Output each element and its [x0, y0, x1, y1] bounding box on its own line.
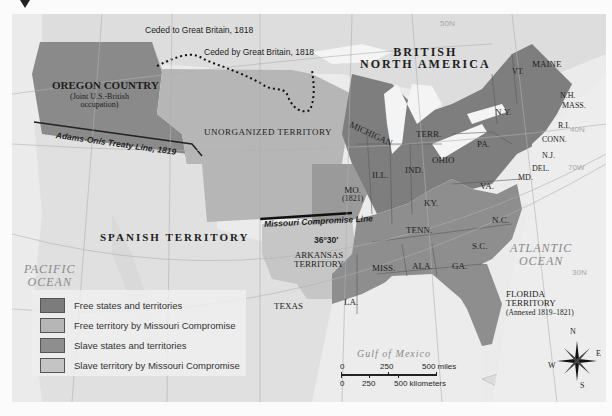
compass-w: W [548, 362, 556, 370]
annotation-ceded-to: Ceded to Great Britain, 1818 [145, 26, 253, 35]
state-label-ga: GA. [452, 262, 467, 271]
legend-swatch-slave-states [40, 338, 65, 353]
grid-label-30n: 30N [572, 269, 587, 277]
grid-label-40n: 40N [570, 126, 585, 134]
legend-item-slave-states: Slave states and territories [40, 337, 186, 353]
region-label-oregon-country: OREGON COUNTRY [52, 80, 159, 91]
state-label-ill: ILL. [372, 171, 388, 180]
region-label-michigan-terr: TERR. [416, 130, 441, 139]
scale-bar: 0 250 500 miles 0 250 500 kilometers [340, 363, 450, 393]
legend-label: Slave states and territories [74, 340, 186, 351]
region-label-british-north-america: BRITISH NORTH AMERICA [360, 46, 491, 70]
legend-swatch-free-territory [40, 318, 65, 333]
map-legend: Free states and territories Free territo… [32, 290, 246, 376]
region-label-spanish-territory: SPANISH TERRITORY [100, 232, 249, 243]
state-label-ri: R.I. [558, 122, 570, 130]
state-label-miss: MISS. [372, 264, 395, 273]
region-label-arkansas-territory: ARKANSAS TERRITORY [294, 251, 344, 269]
state-label-conn: CONN. [542, 136, 567, 144]
scale-km-250: 250 [362, 380, 375, 388]
legend-swatch-slave-territory [40, 358, 65, 373]
state-label-del: DEL. [532, 165, 550, 173]
state-label-ky: KY. [424, 199, 438, 208]
region-label-unorganized-territory: UNORGANIZED TERRITORY [204, 128, 332, 137]
state-label-vt: VT. [512, 68, 524, 76]
compass-s: S [580, 382, 584, 390]
compass-e: E [596, 350, 601, 358]
annotation-ceded-by: Ceded by Great Britain, 1818 [204, 48, 314, 57]
state-label-nh: N.H. [560, 92, 576, 100]
legend-label: Free states and territories [74, 300, 182, 311]
scale-miles-500: 500 miles [422, 363, 456, 371]
state-label-sc: S.C. [472, 242, 488, 251]
state-label-va: VA. [480, 182, 494, 191]
oregon-note: (Joint U.S.-British occupation) [70, 93, 129, 109]
legend-item-free-states: Free states and territories [40, 297, 182, 313]
compass-n: N [570, 328, 576, 336]
grid-label-50n: 50N [440, 20, 455, 28]
water-label-atlantic-ocean: ATLANTIC OCEAN [510, 242, 572, 268]
scale-km-0: 0 [340, 380, 344, 388]
region-label-florida-territory: FLORIDA TERRITORY (Annexed 1819–1821) [506, 290, 574, 317]
legend-swatch-free-states [40, 298, 65, 313]
region-label-texas: TEXAS [274, 302, 303, 311]
state-label-ala: ALA. [412, 262, 433, 271]
scale-miles-250: 250 [380, 363, 393, 371]
state-label-md: MD. [518, 174, 533, 182]
water-label-gulf-of-mexico: Gulf of Mexico [357, 348, 431, 359]
compass-rose-icon: N S E W [552, 336, 602, 386]
state-label-mass: MASS. [562, 102, 586, 110]
state-label-ohio: OHIO [432, 156, 455, 165]
state-label-la: LA. [344, 298, 358, 307]
grid-label-70w: 70W [568, 164, 584, 172]
location-marker-icon [20, 0, 30, 8]
state-label-maine: MAINE [532, 60, 562, 69]
state-label-pa: PA. [477, 140, 490, 149]
state-label-ind: IND. [405, 166, 423, 175]
state-label-ny: N.Y. [495, 108, 511, 117]
state-label-nj: N.J. [542, 152, 555, 160]
legend-item-free-territory: Free territory by Missouri Compromise [40, 317, 236, 333]
annotation-36-30: 36°30′ [314, 236, 338, 245]
scale-miles-0: 0 [340, 363, 344, 371]
state-label-tenn: TENN. [406, 226, 432, 235]
legend-item-slave-territory: Slave territory by Missouri Compromise [40, 357, 240, 373]
water-label-pacific-ocean: PACIFIC OCEAN [24, 263, 75, 289]
state-label-nc: N.C. [492, 216, 509, 225]
legend-label: Slave territory by Missouri Compromise [74, 360, 240, 371]
legend-label: Free territory by Missouri Compromise [74, 320, 236, 331]
scale-km-500: 500 kilometers [394, 380, 446, 388]
state-label-mo: MO. (1821) [342, 186, 363, 203]
